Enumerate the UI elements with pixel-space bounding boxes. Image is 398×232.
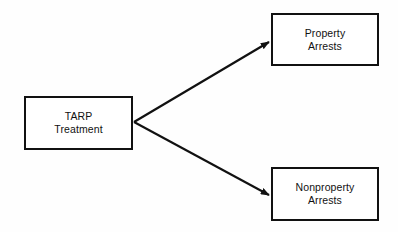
arrow-to-property-arrests [134,42,269,122]
arrow-to-nonproperty-arrests [134,122,269,195]
node-property-arrests-label: Property Arrests [305,27,345,53]
node-tarp-treatment-label: TARP Treatment [54,110,102,136]
node-nonproperty-arrests: Nonproperty Arrests [271,167,379,221]
node-nonproperty-arrests-label: Nonproperty Arrests [296,181,355,207]
node-tarp-treatment: TARP Treatment [24,96,133,150]
diagram-canvas: TARP Treatment Property Arrests Nonprope… [0,0,398,232]
node-property-arrests: Property Arrests [271,13,379,66]
